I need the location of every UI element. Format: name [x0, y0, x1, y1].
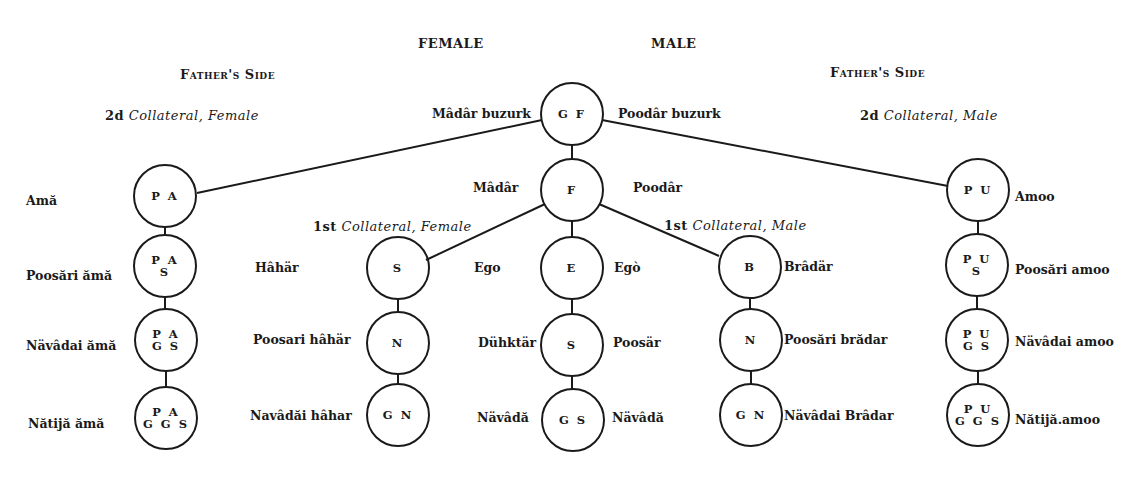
node-bb: B [719, 236, 781, 298]
collateral-prefix: 2d [105, 108, 124, 123]
collateral-prefix: 1st [664, 218, 688, 233]
label-navadai-hahar: Navâdăi hâhar [250, 410, 352, 423]
node-pa: P A [134, 165, 196, 227]
label-poosar: Poosär [613, 337, 660, 350]
collateral-text: Collateral, Male [693, 218, 807, 233]
label-hahar: Hâhär [255, 262, 299, 275]
node-code-sub: S [160, 266, 170, 278]
collateral-text: Collateral, Female [129, 108, 259, 123]
label-ego-male: Egò [614, 262, 641, 275]
node-pags: P AG S [135, 309, 197, 371]
node-code: N [392, 337, 405, 349]
label-poodar: Poodâr [633, 182, 682, 195]
label-poodar-buzurk: Poodâr buzurk [618, 108, 721, 121]
collateral-prefix: 2d [860, 108, 879, 123]
node-code: S [393, 262, 403, 274]
label-duhktar: Dühktär [478, 337, 536, 350]
label-natija-amoo: Nătijă.amoo [1015, 414, 1100, 427]
node-code: P A [151, 190, 179, 202]
heading-2d-collateral-female: 2d Collateral, Female [105, 108, 259, 123]
label-navada-male: Nävâdă [612, 412, 664, 425]
node-code: P U [964, 184, 993, 196]
node-code: E [567, 262, 578, 274]
node-sgn: G N [367, 384, 429, 446]
node-puggs: P UG G S [947, 384, 1009, 446]
label-navadai-ama: Nävâdai ămă [26, 340, 116, 353]
node-f: F [541, 159, 603, 221]
label-poosari-hahar: Poosari hâhär [253, 334, 351, 347]
node-code: B [744, 261, 756, 273]
edge-gf-pu [602, 120, 948, 186]
node-code-sub: S [972, 265, 982, 277]
node-pugs: P UG S [946, 309, 1008, 371]
node-code-sub: G G S [955, 415, 1001, 427]
node-paggs: P AG G S [135, 387, 197, 449]
label-madar: Mâdâr [473, 182, 518, 195]
label-ama: Amă [26, 195, 57, 208]
node-code: F [567, 184, 577, 196]
node-code: G N [736, 409, 766, 421]
node-code-sub: G G S [143, 418, 189, 430]
label-navada-female: Nävâdă [477, 412, 529, 425]
label-navadai-bradar: Nävâdai Brâdar [784, 410, 894, 423]
heading-2d-collateral-male: 2d Collateral, Male [860, 108, 998, 123]
node-code: G F [558, 108, 586, 120]
collateral-text: Collateral, Female [342, 219, 472, 234]
heading-1st-collateral-female: 1st Collateral, Female [313, 219, 472, 234]
node-bgn: G N [720, 384, 782, 446]
node-e: E [541, 237, 603, 299]
node-es: S [541, 314, 603, 376]
node-code: S [567, 339, 577, 351]
label-madar-buzurk: Mâdâr buzurk [432, 108, 531, 121]
node-pas: P AS [134, 235, 196, 297]
node-code: N [745, 334, 758, 346]
label-natija-ama: Nătijă ămă [28, 418, 104, 431]
label-poosari-amoo: Poosări amoo [1015, 264, 1110, 277]
node-code-sub: G S [152, 340, 180, 352]
label-amoo: Amoo [1015, 191, 1055, 204]
label-navadai-amoo: Nävâdai amoo [1015, 336, 1114, 349]
collateral-prefix: 1st [313, 219, 337, 234]
node-bn: N [720, 309, 782, 371]
node-code: G S [559, 414, 587, 426]
heading-fathers-side-left: Father's Side [180, 67, 275, 82]
node-code: G N [383, 409, 413, 421]
heading-fathers-side-right: Father's Side [830, 65, 925, 80]
node-code-sub: G S [963, 340, 991, 352]
node-gf: G F [541, 83, 603, 145]
heading-female: FEMALE [418, 36, 484, 51]
node-pus: P US [946, 234, 1008, 296]
heading-1st-collateral-male: 1st Collateral, Male [664, 218, 807, 233]
node-ss: S [367, 237, 429, 299]
node-egs: G S [542, 389, 604, 451]
label-poosari-bradar: Poosări brădar [784, 334, 887, 347]
label-bradar: Brâdär [784, 261, 833, 274]
label-ego-female: Ego [474, 262, 501, 275]
collateral-text: Collateral, Male [884, 108, 998, 123]
node-sn: N [367, 312, 429, 374]
node-pu: P U [947, 159, 1009, 221]
heading-male: MALE [651, 36, 697, 51]
label-poosari-ama: Poosări ămă [26, 270, 112, 283]
